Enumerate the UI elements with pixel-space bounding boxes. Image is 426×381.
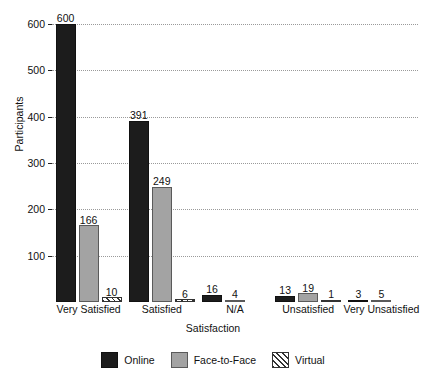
bar-value-label: 249: [153, 176, 171, 187]
y-axis-tick-label: 400: [27, 111, 45, 122]
gridline: [52, 24, 418, 25]
legend-item[interactable]: Online: [101, 352, 154, 368]
bar-value-label: 600: [57, 13, 75, 24]
bar-online: 600: [56, 24, 76, 302]
legend-label: Online: [124, 355, 154, 366]
tick-mark: [48, 24, 52, 25]
x-axis-category-label: Satisfied: [142, 304, 182, 315]
bar-virtual: 1: [321, 300, 341, 303]
bar-value-label: 10: [106, 287, 118, 298]
y-axis-tick-label: 600: [27, 19, 45, 30]
bar-f2f: 249: [152, 187, 172, 302]
bar-value-label: 13: [279, 285, 291, 296]
tick-mark: [48, 163, 52, 164]
legend-label: Virtual: [295, 355, 325, 366]
tick-mark: [48, 117, 52, 118]
gridline: [52, 117, 418, 118]
legend-swatch-f2f: [171, 352, 188, 368]
x-axis-category-label: Very Satisfied: [56, 304, 120, 315]
gridline: [52, 209, 418, 210]
bar-online: 3: [348, 300, 368, 303]
gridline: [52, 163, 418, 164]
legend-label: Face-to-Face: [194, 355, 256, 366]
bar-value-label: 16: [206, 284, 218, 295]
legend-item[interactable]: Virtual: [272, 352, 325, 368]
bar-value-label: 3: [355, 289, 361, 300]
bar-value-label: 5: [378, 289, 384, 300]
tick-mark: [48, 70, 52, 71]
y-axis-tick-label: 300: [27, 158, 45, 169]
x-axis-category-label: Very Unsatisfied: [343, 304, 419, 315]
x-axis-category-label: Unsatisfied: [282, 304, 334, 315]
tick-mark: [48, 209, 52, 210]
legend-item[interactable]: Face-to-Face: [171, 352, 256, 368]
bar-virtual: 6: [175, 299, 195, 302]
bar-online: 16: [202, 295, 222, 302]
bar-chart: Participants 100200300400500600600166103…: [0, 0, 426, 381]
legend-swatch-virtual: [272, 352, 289, 368]
bar-value-label: 19: [302, 283, 314, 294]
bar-value-label: 4: [232, 289, 238, 300]
x-axis-category-label: N/A: [226, 304, 244, 315]
bar-online: 13: [275, 296, 295, 302]
bar-value-label: 166: [80, 215, 98, 226]
bar-value-label: 391: [130, 110, 148, 121]
chart-legend: OnlineFace-to-FaceVirtual: [0, 352, 426, 368]
bar-virtual: 10: [102, 297, 122, 302]
x-axis-title: Satisfaction: [0, 322, 426, 334]
tick-mark: [48, 256, 52, 257]
bar-f2f: 19: [298, 293, 318, 302]
gridline: [52, 256, 418, 257]
bar-f2f: 4: [225, 300, 245, 303]
y-axis-tick-label: 500: [27, 65, 45, 76]
bar-online: 391: [129, 121, 149, 302]
bar-f2f: 5: [371, 300, 391, 303]
bar-f2f: 166: [79, 225, 99, 302]
bar-value-label: 6: [182, 289, 188, 300]
y-axis-tick-label: 200: [27, 204, 45, 215]
legend-swatch-online: [101, 352, 118, 368]
gridline: [52, 70, 418, 71]
bar-value-label: 1: [328, 289, 334, 300]
y-axis-tick-label: 100: [27, 250, 45, 261]
plot-area: 1002003004005006006001661039124961641319…: [52, 10, 418, 302]
y-axis-title: Participants: [13, 69, 25, 179]
